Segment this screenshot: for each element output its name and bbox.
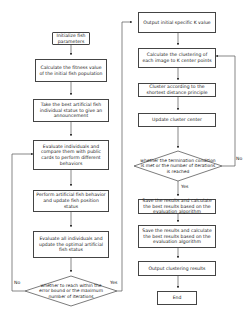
label-yes-left: Yes: [110, 280, 117, 285]
node-calculate-fitness: Calculate the fitness value of the initi…: [35, 59, 107, 82]
node-cluster-shortest-distance: Cluster according to the shortest distan…: [138, 83, 216, 97]
decision-error-bound: whether to reach within the error bound …: [35, 281, 107, 301]
node-update-cluster-center: Update cluster center: [138, 113, 216, 127]
node-best-fish-announcement: Take the best artificial fish individual…: [33, 99, 109, 122]
node-end: End: [157, 291, 197, 305]
label-no-left: No: [14, 280, 20, 285]
node-save-results-2: Save the results and calculate the best …: [138, 225, 216, 248]
node-initialize-fish: Initialize fish parameters: [52, 32, 90, 45]
node-evaluate-individuals: Evaluate individuals and compare them wi…: [33, 140, 109, 170]
node-save-results-1: Save the results and calculate the best …: [138, 199, 216, 214]
node-output-clustering: Output clustering results: [138, 261, 216, 276]
label-yes-right: Yes: [181, 184, 188, 189]
decision-termination: whether the termination condition is met…: [140, 156, 216, 176]
node-calculate-clustering: Calculate the clustering of each image t…: [138, 48, 216, 68]
node-evaluate-all: Evaluate all individuals and update the …: [33, 231, 109, 258]
node-perform-behavior: Perform artificial fish behavior and upd…: [33, 190, 109, 212]
node-output-k-value: Output initial specific K value: [138, 12, 216, 33]
label-no-right: No: [236, 156, 242, 161]
